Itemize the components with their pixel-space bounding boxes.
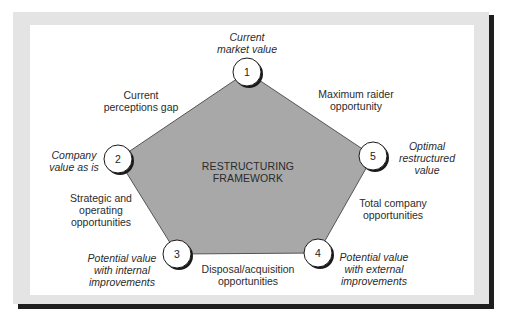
node-1-number: 1 [233, 58, 261, 86]
edge-4-5-label-line-2: opportunities [352, 209, 434, 221]
node-5-label-line-2: restructured [392, 152, 462, 164]
edge-3-4-label: Disposal/acquisition opportunities [196, 263, 300, 287]
edge-2-3-label-line-1: Strategic and [62, 192, 140, 204]
edge-2-3-label: Strategic and operating opportunities [62, 192, 140, 228]
node-1-label: Current market value [197, 31, 297, 55]
node-5-number: 5 [359, 142, 387, 170]
edge-4-5-label-line-1: Total company [352, 197, 434, 209]
edge-1-2-label: Current perceptions gap [96, 89, 186, 113]
edge-3-4-label-line-1: Disposal/acquisition [196, 263, 300, 275]
node-1-label-line-2: market value [197, 43, 297, 55]
edge-1-2-label-line-1: Current [96, 89, 186, 101]
node-4-label-line-3: improvements [324, 275, 424, 287]
node-3-label-line-1: Potential value [72, 252, 172, 264]
edge-1-2-label-line-2: perceptions gap [96, 101, 186, 113]
edge-4-5-label: Total company opportunities [352, 197, 434, 221]
node-5-label-line-3: value [392, 164, 462, 176]
node-4-label-line-1: Potential value [324, 251, 424, 263]
edge-5-1-label: Maximum raider opportunity [312, 88, 400, 112]
diagram-title: RESTRUCTURING FRAMEWORK [188, 160, 308, 184]
edge-3-4-label-line-2: opportunities [196, 275, 300, 287]
edge-5-1-label-line-2: opportunity [312, 100, 400, 112]
edge-2-3-label-line-2: operating [62, 204, 140, 216]
node-3-label-line-2: with internal [72, 264, 172, 276]
edge-5-1-label-line-1: Maximum raider [312, 88, 400, 100]
node-2-label-line-2: value as is [36, 161, 112, 173]
node-5-label: Optimal restructured value [392, 140, 462, 176]
node-5-label-line-1: Optimal [392, 140, 462, 152]
node-4-label-line-2: with external [324, 263, 424, 275]
edge-2-3-label-line-3: opportunities [62, 216, 140, 228]
node-3-label: Potential value with internal improvemen… [72, 252, 172, 288]
diagram-title-line-2: FRAMEWORK [188, 172, 308, 184]
node-2-label: Company value as is [36, 149, 112, 173]
node-2-label-line-1: Company [36, 149, 112, 161]
diagram-title-line-1: RESTRUCTURING [188, 160, 308, 172]
node-4-label: Potential value with external improvemen… [324, 251, 424, 287]
node-1-label-line-1: Current [197, 31, 297, 43]
node-3-label-line-3: improvements [72, 276, 172, 288]
